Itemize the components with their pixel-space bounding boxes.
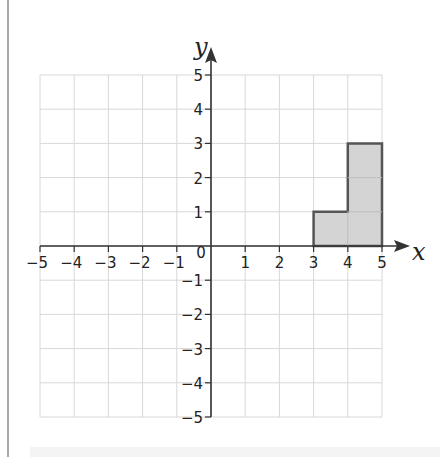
y-tick-label: −1 [181, 272, 203, 290]
y-tick-label: −3 [181, 341, 203, 359]
x-tick-label: −2 [129, 254, 151, 272]
x-tick-label: 5 [377, 254, 387, 272]
shaded-shape [314, 143, 382, 246]
x-tick-label: −4 [60, 254, 82, 272]
y-tick-label: 4 [193, 101, 203, 119]
x-tick-label: −3 [94, 254, 116, 272]
y-tick-label: −2 [181, 306, 203, 324]
x-tick-label: 1 [240, 254, 250, 272]
y-tick-label: 5 [193, 67, 203, 85]
y-tick-label: 2 [193, 170, 203, 188]
x-tick-label: −1 [163, 254, 185, 272]
x-axis-label: x [412, 238, 426, 266]
y-tick-label: 1 [193, 204, 203, 222]
y-tick-label: −5 [181, 409, 203, 427]
y-tick-label: −4 [181, 375, 203, 393]
x-tick-label: −5 [26, 254, 48, 272]
y-axis-label: y [193, 33, 208, 61]
y-tick-label: 3 [193, 135, 203, 153]
x-tick-label: 4 [343, 254, 353, 272]
x-tick-label: 2 [275, 254, 285, 272]
origin-label: 0 [196, 244, 206, 262]
coordinate-grid-chart: −5−4−3−2−11234554321−1−2−3−4−50xy [0, 0, 440, 457]
x-tick-label: 3 [309, 254, 319, 272]
